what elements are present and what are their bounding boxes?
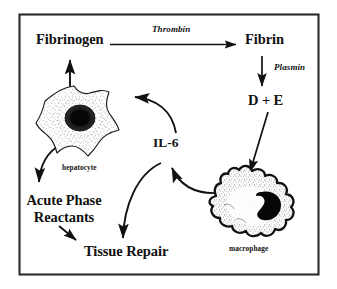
arrow-il6-to-hepatocyte: [135, 97, 176, 133]
caption-hepatocyte: hepatocyte: [62, 164, 97, 171]
node-fibrin: Fibrin: [245, 32, 284, 47]
node-acute-phase-reactants: Acute Phase Reactants: [16, 192, 112, 225]
arrow-macrophage-to-il6-up: [172, 168, 218, 193]
caption-macrophage: macrophage: [229, 245, 268, 252]
acute-phase-line-2: Reactants: [16, 209, 112, 226]
arrow-il6-to-tissue-repair: [123, 163, 161, 238]
node-fibrinogen: Fibrinogen: [36, 32, 103, 47]
macrophage-cell: [210, 166, 294, 236]
node-tissue-repair: Tissue Repair: [84, 244, 168, 259]
arrow-d-plus-e-to-macrophage: [250, 112, 268, 172]
hepatocyte-cell: [36, 86, 119, 156]
arrow-acute-phase-to-tissue-repair: [59, 226, 76, 240]
acute-phase-line-1: Acute Phase: [16, 192, 112, 209]
enzyme-thrombin: Thrombin: [152, 25, 190, 34]
pathway-diagram: Fibrinogen Fibrin Thrombin Plasmin D + E…: [0, 0, 337, 289]
node-d-plus-e: D + E: [248, 93, 283, 108]
enzyme-plasmin: Plasmin: [274, 63, 305, 72]
node-il6: IL-6: [153, 136, 179, 150]
